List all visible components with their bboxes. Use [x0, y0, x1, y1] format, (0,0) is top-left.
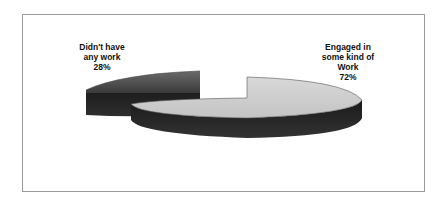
label-didnt-have-work: Didn't have any work 28% [66, 42, 138, 72]
label-engaged-in-work: Engaged in some kind of Work 72% [308, 42, 388, 82]
pie-chart [0, 0, 444, 202]
